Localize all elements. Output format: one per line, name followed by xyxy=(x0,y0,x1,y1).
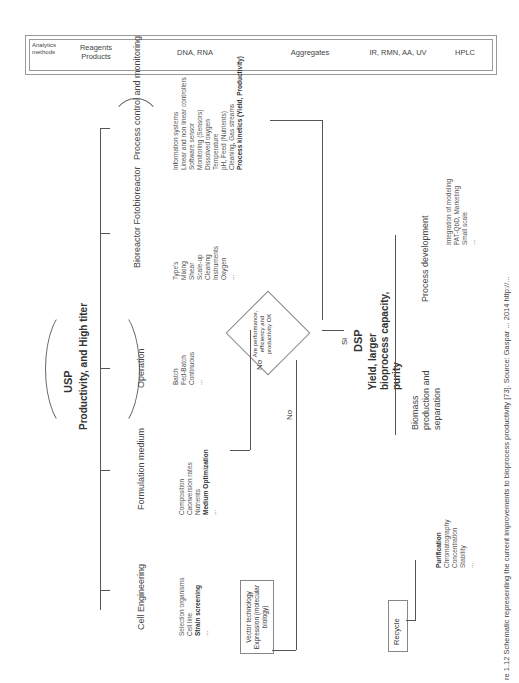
branch-tick xyxy=(100,128,110,129)
no-bottom-line xyxy=(296,360,297,650)
list-item: Selection organisms xyxy=(178,577,186,636)
recycle-box: Recycle xyxy=(388,600,408,652)
list-item: Information systems xyxy=(172,30,180,170)
connector-line xyxy=(270,120,322,121)
analytics-header-inner: Analytics methods Reagents Products DNA,… xyxy=(29,39,493,71)
process-kinetics-to-decision-line xyxy=(322,120,323,320)
yes-arrow-line xyxy=(322,330,344,331)
usp-title: USP xyxy=(62,370,74,393)
branch-tick xyxy=(100,590,110,591)
stage-bioreactor: Bioreactor Fotobioreactor xyxy=(132,166,142,268)
list-item-bold: Process kinetics (Yield, Productivity) xyxy=(236,30,244,170)
list-item: ... xyxy=(202,577,210,636)
header-ir-rmn: IR, RMN, AA, UV xyxy=(348,48,448,57)
operation-list: Batch Fed-Batch Continuous ... xyxy=(172,352,204,385)
list-item: Temperature xyxy=(212,30,220,170)
branch-tick xyxy=(100,470,110,471)
bioreactor-list: Type's Mixing Shear Scale-up Cleaning In… xyxy=(172,246,236,280)
formulation-list: Composition Caonversion rates Nutrients … xyxy=(178,449,218,515)
vector-technology-box: Vector technology Expression (molecular … xyxy=(240,580,274,654)
list-item: Software sensor xyxy=(188,30,196,170)
list-item: Monitoring (Sensors) xyxy=(196,30,204,170)
stage-biomass: Biomass production and separation xyxy=(410,360,443,430)
list-item: Cleaning xyxy=(204,246,212,280)
no-bottom-arrow-line xyxy=(272,650,296,651)
list-item: PAT-QbD, Marketing xyxy=(453,179,461,245)
list-item: Stability xyxy=(459,520,467,568)
stage-process-control: Process control and monitoring xyxy=(132,36,142,160)
list-item: Cleaning, Gas streams xyxy=(228,30,236,170)
header-reagents-products: Reagents Products xyxy=(66,43,126,61)
figure-caption: re 1.12 Schematic representing the curre… xyxy=(502,276,511,680)
dsp-subtitle: Yield, larger bioprocess capacity, purit… xyxy=(367,290,403,390)
list-item: Oxygen xyxy=(220,246,228,280)
list-item: ... xyxy=(467,520,475,568)
list-item: ... xyxy=(228,246,236,280)
recycle-line xyxy=(415,560,416,620)
list-item-bold: Strain screening xyxy=(194,577,202,636)
decision-question: Are performance, efficiency and producti… xyxy=(252,303,273,365)
process-control-list: Information systems Linear and non linea… xyxy=(172,30,244,170)
cell-engineering-list: Selection organisms Cell line Strain scr… xyxy=(178,577,210,636)
recycle-label: Recycle xyxy=(392,618,401,645)
dsp-branch-line xyxy=(395,235,396,435)
list-item-bold: Medium Optimization xyxy=(202,449,210,515)
list-item: pH, Feed (Nutrients) xyxy=(220,30,228,170)
stage-formulation-medium: Formulation medium xyxy=(136,428,146,510)
list-item: Batch xyxy=(172,352,180,385)
branch-tick xyxy=(100,233,110,234)
list-item-bold: Purification xyxy=(435,520,443,568)
list-item: Nutrients xyxy=(194,449,202,515)
dsp-title: DSP xyxy=(352,329,364,352)
analytics-header-bar: Analytics methods Reagents Products DNA,… xyxy=(25,35,497,75)
purification-list: Purification Chromatography Concentratio… xyxy=(435,520,475,568)
list-item: Cell line xyxy=(186,577,194,636)
usp-trunk-line xyxy=(100,128,101,610)
header-hplc: HPLC xyxy=(435,48,495,57)
usp-subtitle: Productivity, and High titer xyxy=(78,303,89,430)
stage-cell-engineering: Cell Engineering xyxy=(136,564,146,630)
list-item: Composition xyxy=(178,449,186,515)
list-item: Type's xyxy=(172,246,180,280)
no-left-arrow-line xyxy=(230,450,250,451)
list-item: Chromatography xyxy=(443,520,451,568)
header-aggregates: Aggregates xyxy=(270,48,350,57)
list-item: Instruments xyxy=(212,246,220,280)
list-item: Mixing xyxy=(180,246,188,280)
list-item: Small scale xyxy=(461,179,469,245)
list-item: Continuous xyxy=(188,352,196,385)
usp-bracket-left xyxy=(45,308,97,430)
list-item: Fed-Batch xyxy=(180,352,188,385)
header-analytics-methods: Analytics methods xyxy=(32,42,54,56)
list-item: ... xyxy=(469,179,477,245)
list-item: Integration of modeling xyxy=(445,179,453,245)
no-left-line xyxy=(250,330,251,450)
stage-process-development: Process development xyxy=(420,215,430,302)
list-item: ... xyxy=(196,352,204,385)
list-item: Linear and non linear controllers xyxy=(180,30,188,170)
vector-technology-label: Vector technology Expression (molecular … xyxy=(245,583,269,651)
branch-tick xyxy=(100,368,110,369)
decision-no-left: No xyxy=(255,360,264,370)
decision-no-bottom: No xyxy=(285,410,294,420)
list-item: Concentration xyxy=(451,520,459,568)
list-item: Caonversion rates xyxy=(186,449,194,515)
process-development-list: Integration of modeling PAT-QbD, Marketi… xyxy=(445,179,477,245)
list-item: ... xyxy=(210,449,218,515)
decision-yes: Si xyxy=(340,338,349,345)
list-item: Dissolved oxygen xyxy=(204,30,212,170)
recycle-arrow-line xyxy=(406,620,416,621)
list-item: Scale-up xyxy=(196,246,204,280)
list-item: Shear xyxy=(188,246,196,280)
stage-operation: Operation xyxy=(136,348,146,388)
